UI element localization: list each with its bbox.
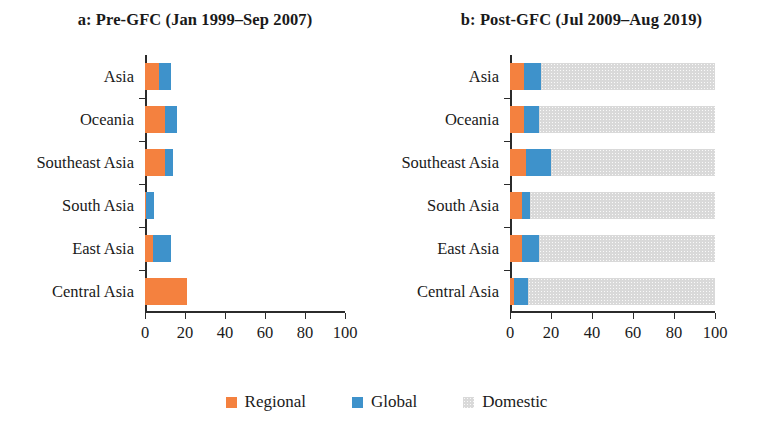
x-tick-label-a-20: 20 bbox=[177, 323, 194, 343]
x-tick-label-b-0: 0 bbox=[506, 323, 514, 343]
bar-segment-global bbox=[165, 149, 173, 176]
panel-a-x-axis bbox=[145, 311, 345, 313]
legend-label: Global bbox=[371, 392, 417, 412]
x-tick-b-100 bbox=[715, 313, 716, 319]
category-label-a-3: South Asia bbox=[62, 196, 134, 216]
x-tick-a-100 bbox=[345, 313, 346, 319]
x-tick-a-80 bbox=[305, 313, 306, 319]
category-label-b-2: Southeast Asia bbox=[401, 153, 499, 173]
bar-segment-regional bbox=[145, 106, 165, 133]
x-tick-a-20 bbox=[185, 313, 186, 319]
y-tick-b-2 bbox=[504, 184, 510, 185]
x-tick-label-b-100: 100 bbox=[703, 323, 728, 343]
bar-segment-regional bbox=[145, 235, 153, 262]
bar-row bbox=[510, 192, 715, 219]
bar-segment-regional bbox=[510, 149, 526, 176]
x-tick-a-60 bbox=[265, 313, 266, 319]
x-tick-b-0 bbox=[510, 313, 511, 319]
y-tick-b-3 bbox=[504, 227, 510, 228]
bar-segment-domestic bbox=[528, 278, 715, 305]
y-tick-b-0 bbox=[504, 98, 510, 99]
x-tick-b-40 bbox=[592, 313, 593, 319]
x-tick-label-a-60: 60 bbox=[257, 323, 274, 343]
bar-segment-global bbox=[159, 63, 171, 90]
legend-swatch-global-icon bbox=[352, 397, 363, 408]
bar-segment-global bbox=[524, 63, 540, 90]
x-tick-label-a-100: 100 bbox=[333, 323, 358, 343]
x-tick-label-b-80: 80 bbox=[666, 323, 683, 343]
chart-legend: RegionalGlobalDomestic bbox=[0, 392, 773, 412]
category-label-a-1: Oceania bbox=[80, 110, 134, 130]
bar-segment-global bbox=[522, 235, 538, 262]
category-label-b-0: Asia bbox=[469, 67, 499, 87]
legend-swatch-regional-icon bbox=[226, 397, 237, 408]
y-tick-a-3 bbox=[139, 227, 145, 228]
legend-label: Domestic bbox=[482, 392, 547, 412]
bar-row bbox=[510, 149, 715, 176]
panel-a-pre-gfc: a: Pre-GFC (Jan 1999–Sep 2007) 020406080… bbox=[0, 0, 390, 360]
bar-segment-domestic bbox=[530, 192, 715, 219]
bar-segment-domestic bbox=[539, 106, 715, 133]
x-tick-a-40 bbox=[225, 313, 226, 319]
bar-segment-regional bbox=[145, 63, 159, 90]
panel-a-plot-area: 020406080100AsiaOceaniaSoutheast AsiaSou… bbox=[145, 55, 345, 313]
bar-segment-regional bbox=[510, 235, 522, 262]
panel-b-y-axis bbox=[510, 55, 512, 313]
bar-segment-global bbox=[522, 192, 530, 219]
x-tick-label-a-40: 40 bbox=[217, 323, 234, 343]
bar-row bbox=[145, 149, 173, 176]
legend-item-regional: Regional bbox=[226, 392, 306, 412]
bar-segment-regional bbox=[510, 63, 524, 90]
category-label-a-5: Central Asia bbox=[52, 282, 134, 302]
panel-b-x-axis bbox=[510, 311, 715, 313]
bar-segment-domestic bbox=[541, 63, 715, 90]
y-tick-a-4 bbox=[139, 270, 145, 271]
panel-b-post-gfc: b: Post-GFC (Jul 2009–Aug 2019) 02040608… bbox=[390, 0, 773, 360]
category-label-b-5: Central Asia bbox=[417, 282, 499, 302]
panel-a-y-axis bbox=[145, 55, 147, 313]
bar-row bbox=[145, 63, 171, 90]
bar-segment-regional bbox=[510, 106, 524, 133]
y-tick-b-1 bbox=[504, 141, 510, 142]
y-tick-b-4 bbox=[504, 270, 510, 271]
bar-row bbox=[510, 235, 715, 262]
bar-segment-domestic bbox=[539, 235, 715, 262]
category-label-b-1: Oceania bbox=[445, 110, 499, 130]
panel-container: a: Pre-GFC (Jan 1999–Sep 2007) 020406080… bbox=[0, 0, 773, 360]
x-tick-b-80 bbox=[674, 313, 675, 319]
y-tick-a-2 bbox=[139, 184, 145, 185]
bar-segment-regional bbox=[145, 149, 165, 176]
x-tick-label-a-80: 80 bbox=[297, 323, 314, 343]
y-tick-a-0 bbox=[139, 98, 145, 99]
legend-label: Regional bbox=[245, 392, 306, 412]
bar-row bbox=[145, 106, 177, 133]
x-tick-label-b-20: 20 bbox=[543, 323, 560, 343]
bar-segment-global bbox=[524, 106, 538, 133]
bar-row bbox=[510, 63, 715, 90]
bar-segment-global bbox=[146, 192, 154, 219]
panel-b-plot-area: 020406080100AsiaOceaniaSoutheast AsiaSou… bbox=[510, 55, 715, 313]
x-tick-label-b-40: 40 bbox=[584, 323, 601, 343]
bar-segment-global bbox=[514, 278, 528, 305]
legend-item-domestic: Domestic bbox=[463, 392, 547, 412]
y-tick-a-1 bbox=[139, 141, 145, 142]
bar-row bbox=[510, 278, 715, 305]
bar-row bbox=[145, 192, 154, 219]
bar-segment-regional bbox=[510, 192, 522, 219]
x-tick-label-a-0: 0 bbox=[141, 323, 149, 343]
panel-a-title: a: Pre-GFC (Jan 1999–Sep 2007) bbox=[0, 10, 390, 30]
figure-stacked-bar-panels: a: Pre-GFC (Jan 1999–Sep 2007) 020406080… bbox=[0, 0, 773, 422]
x-tick-b-60 bbox=[633, 313, 634, 319]
bar-segment-regional bbox=[145, 278, 187, 305]
bar-row bbox=[145, 278, 187, 305]
x-tick-label-b-60: 60 bbox=[625, 323, 642, 343]
legend-item-global: Global bbox=[352, 392, 417, 412]
category-label-b-3: South Asia bbox=[427, 196, 499, 216]
x-tick-b-20 bbox=[551, 313, 552, 319]
category-label-a-2: Southeast Asia bbox=[36, 153, 134, 173]
x-tick-a-0 bbox=[145, 313, 146, 319]
bar-row bbox=[145, 235, 171, 262]
category-label-a-4: East Asia bbox=[72, 239, 134, 259]
bar-segment-global bbox=[153, 235, 171, 262]
panel-b-title: b: Post-GFC (Jul 2009–Aug 2019) bbox=[390, 10, 773, 30]
